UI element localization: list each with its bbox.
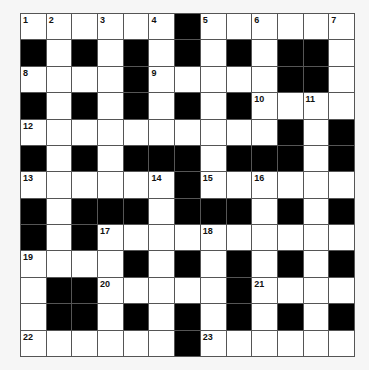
answer-cell[interactable]: 22 — [21, 331, 46, 356]
answer-cell[interactable] — [124, 172, 149, 197]
answer-cell[interactable] — [47, 146, 72, 171]
answer-cell[interactable] — [252, 199, 277, 224]
answer-cell[interactable] — [304, 278, 329, 303]
answer-cell[interactable] — [21, 278, 46, 303]
answer-cell[interactable] — [227, 331, 252, 356]
answer-cell[interactable] — [329, 225, 354, 250]
answer-cell[interactable] — [98, 40, 123, 65]
answer-cell[interactable] — [329, 278, 354, 303]
answer-cell[interactable]: 18 — [201, 225, 226, 250]
answer-cell[interactable]: 1 — [21, 14, 46, 39]
answer-cell[interactable] — [304, 251, 329, 276]
answer-cell[interactable] — [98, 251, 123, 276]
answer-cell[interactable] — [175, 225, 200, 250]
answer-cell[interactable] — [252, 120, 277, 145]
answer-cell[interactable] — [304, 172, 329, 197]
answer-cell[interactable] — [72, 251, 97, 276]
answer-cell[interactable] — [304, 199, 329, 224]
answer-cell[interactable]: 11 — [304, 93, 329, 118]
answer-cell[interactable] — [252, 331, 277, 356]
answer-cell[interactable]: 7 — [329, 14, 354, 39]
answer-cell[interactable] — [98, 331, 123, 356]
answer-cell[interactable] — [252, 225, 277, 250]
answer-cell[interactable]: 8 — [21, 67, 46, 92]
answer-cell[interactable] — [329, 93, 354, 118]
answer-cell[interactable] — [47, 120, 72, 145]
answer-cell[interactable]: 10 — [252, 93, 277, 118]
answer-cell[interactable] — [47, 93, 72, 118]
answer-cell[interactable] — [98, 67, 123, 92]
answer-cell[interactable] — [304, 14, 329, 39]
answer-cell[interactable] — [149, 93, 174, 118]
answer-cell[interactable] — [329, 40, 354, 65]
answer-cell[interactable] — [252, 40, 277, 65]
answer-cell[interactable] — [149, 225, 174, 250]
answer-cell[interactable] — [149, 304, 174, 329]
answer-cell[interactable]: 6 — [252, 14, 277, 39]
answer-cell[interactable] — [21, 304, 46, 329]
answer-cell[interactable] — [175, 120, 200, 145]
answer-cell[interactable] — [278, 93, 303, 118]
answer-cell[interactable] — [227, 14, 252, 39]
answer-cell[interactable]: 19 — [21, 251, 46, 276]
answer-cell[interactable] — [201, 278, 226, 303]
answer-cell[interactable]: 21 — [252, 278, 277, 303]
answer-cell[interactable] — [149, 278, 174, 303]
answer-cell[interactable]: 14 — [149, 172, 174, 197]
answer-cell[interactable] — [201, 67, 226, 92]
answer-cell[interactable]: 5 — [201, 14, 226, 39]
answer-cell[interactable] — [149, 331, 174, 356]
answer-cell[interactable] — [149, 40, 174, 65]
answer-cell[interactable] — [329, 67, 354, 92]
answer-cell[interactable] — [47, 67, 72, 92]
answer-cell[interactable] — [47, 40, 72, 65]
answer-cell[interactable] — [175, 278, 200, 303]
answer-cell[interactable]: 20 — [98, 278, 123, 303]
answer-cell[interactable] — [72, 67, 97, 92]
answer-cell[interactable]: 17 — [98, 225, 123, 250]
answer-cell[interactable]: 13 — [21, 172, 46, 197]
answer-cell[interactable] — [47, 331, 72, 356]
answer-cell[interactable] — [98, 146, 123, 171]
answer-cell[interactable] — [72, 120, 97, 145]
answer-cell[interactable]: 16 — [252, 172, 277, 197]
answer-cell[interactable] — [278, 331, 303, 356]
answer-cell[interactable] — [124, 14, 149, 39]
answer-cell[interactable] — [252, 251, 277, 276]
answer-cell[interactable] — [201, 40, 226, 65]
answer-cell[interactable] — [252, 67, 277, 92]
answer-cell[interactable] — [47, 199, 72, 224]
answer-cell[interactable] — [278, 172, 303, 197]
answer-cell[interactable] — [278, 14, 303, 39]
answer-cell[interactable] — [72, 14, 97, 39]
answer-cell[interactable]: 9 — [149, 67, 174, 92]
answer-cell[interactable] — [124, 120, 149, 145]
answer-cell[interactable] — [227, 225, 252, 250]
answer-cell[interactable]: 15 — [201, 172, 226, 197]
answer-cell[interactable] — [149, 120, 174, 145]
answer-cell[interactable] — [304, 146, 329, 171]
answer-cell[interactable] — [98, 304, 123, 329]
answer-cell[interactable]: 3 — [98, 14, 123, 39]
answer-cell[interactable] — [227, 172, 252, 197]
answer-cell[interactable] — [98, 93, 123, 118]
answer-cell[interactable] — [72, 331, 97, 356]
answer-cell[interactable] — [329, 172, 354, 197]
answer-cell[interactable] — [304, 304, 329, 329]
answer-cell[interactable] — [124, 278, 149, 303]
answer-cell[interactable] — [227, 67, 252, 92]
answer-cell[interactable] — [201, 304, 226, 329]
answer-cell[interactable] — [47, 251, 72, 276]
answer-cell[interactable] — [149, 199, 174, 224]
answer-cell[interactable]: 2 — [47, 14, 72, 39]
answer-cell[interactable] — [175, 67, 200, 92]
answer-cell[interactable] — [47, 225, 72, 250]
answer-cell[interactable] — [278, 278, 303, 303]
answer-cell[interactable] — [227, 120, 252, 145]
answer-cell[interactable] — [201, 146, 226, 171]
answer-cell[interactable] — [98, 120, 123, 145]
answer-cell[interactable] — [304, 120, 329, 145]
answer-cell[interactable]: 23 — [201, 331, 226, 356]
answer-cell[interactable] — [124, 225, 149, 250]
answer-cell[interactable] — [98, 172, 123, 197]
